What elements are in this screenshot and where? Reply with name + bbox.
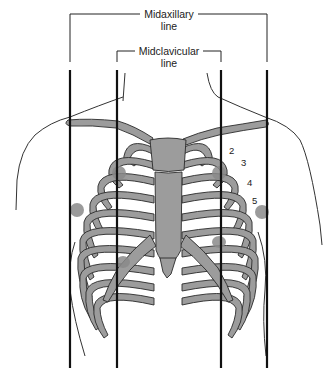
electrode-lower-right	[212, 236, 226, 248]
rib-number-2: 2	[229, 145, 234, 156]
midaxillary-label: Midaxillary	[144, 8, 194, 20]
midclavicular-label: Midclavicular	[139, 45, 200, 57]
sternum	[150, 138, 186, 278]
electrode-left-axillary	[70, 203, 84, 217]
midclavicular-label-line2: line	[161, 57, 178, 69]
electrode-v2-right	[212, 166, 226, 180]
midclavicular-bracket: Midclavicular line	[117, 45, 221, 69]
sternum-body	[155, 172, 182, 265]
manubrium	[150, 138, 186, 172]
electrode-v1-left	[112, 166, 126, 180]
xiphoid-process	[160, 258, 176, 278]
rib-number-4: 4	[247, 177, 252, 188]
rib-number-5: 5	[252, 195, 257, 206]
thorax-diagram: Midaxillary line Midclavicular line 2 3 …	[0, 0, 335, 378]
midaxillary-label-line2: line	[161, 20, 178, 32]
rib-number-3: 3	[241, 157, 246, 168]
